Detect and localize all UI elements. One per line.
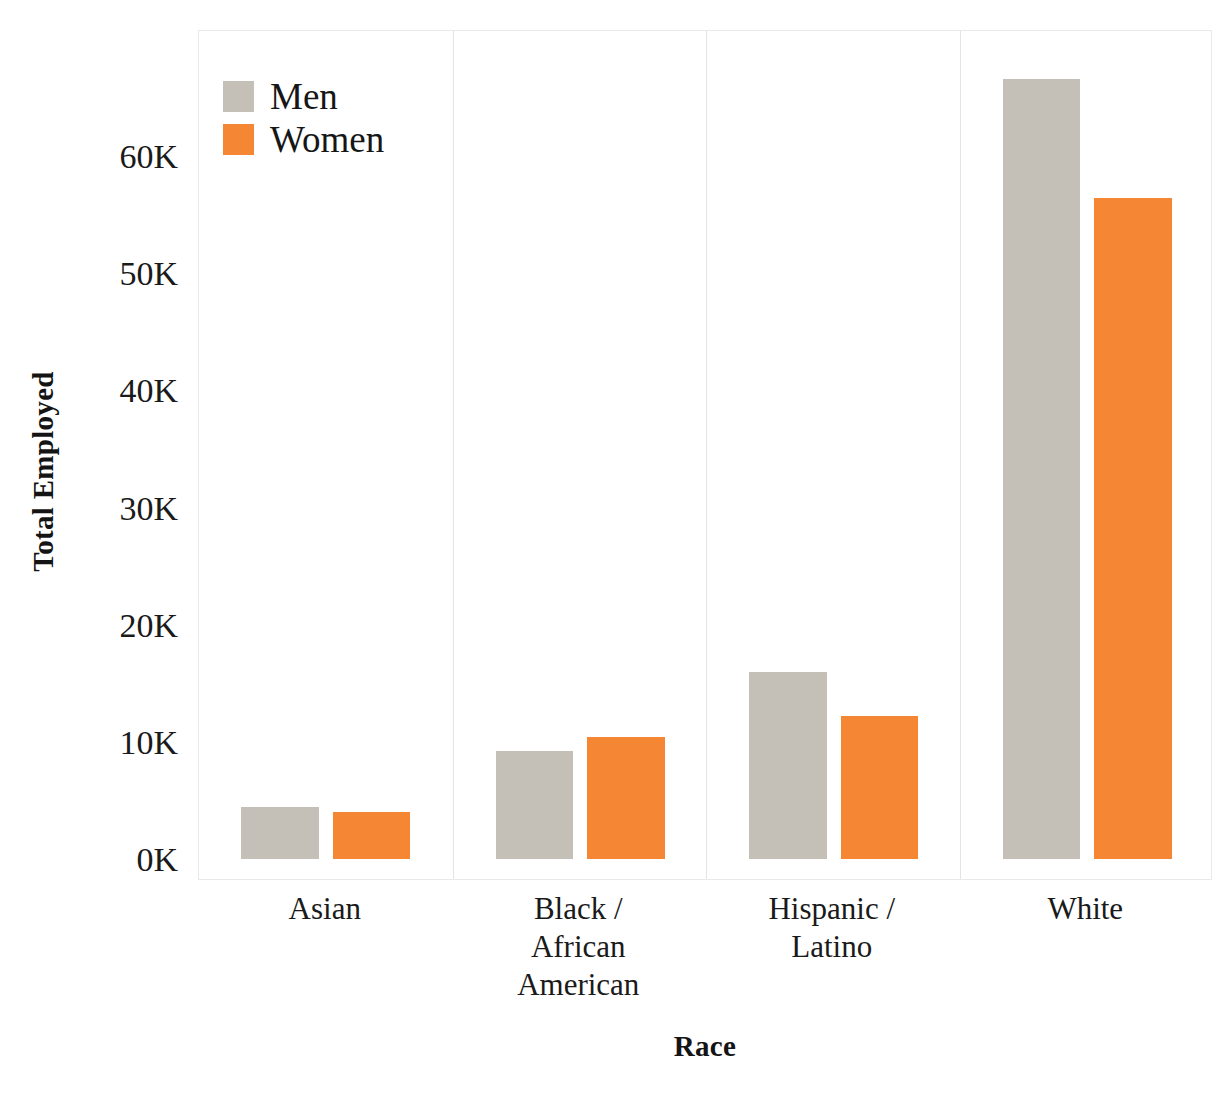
- x-category-label-line: American: [452, 966, 706, 1004]
- bar-women: [841, 716, 918, 859]
- bar-chart: Total Employed 0K10K20K30K40K50K60K Men …: [0, 0, 1221, 1098]
- bar-group: [961, 31, 1214, 879]
- bar-women: [333, 812, 410, 859]
- y-tick-label: 20K: [119, 609, 178, 643]
- x-category-label-line: Black /: [452, 890, 706, 928]
- chart-panel: [453, 31, 707, 879]
- x-category-label: Asian: [198, 890, 452, 928]
- bar-men: [241, 807, 318, 859]
- x-category-label: White: [959, 890, 1213, 928]
- x-category-label-line: African: [452, 928, 706, 966]
- x-axis-category-labels: AsianBlack /AfricanAmericanHispanic /Lat…: [198, 890, 1212, 1030]
- bar-men: [1003, 79, 1080, 859]
- y-tick-label: 0K: [136, 843, 178, 877]
- bar-women: [1094, 198, 1171, 859]
- x-category-label-line: Hispanic /: [705, 890, 959, 928]
- bar-group: [707, 31, 960, 879]
- bar-men: [496, 751, 573, 859]
- y-tick-label: 60K: [119, 140, 178, 174]
- x-category-label-line: White: [959, 890, 1213, 928]
- x-category-label-line: Latino: [705, 928, 959, 966]
- x-category-label: Black /AfricanAmerican: [452, 890, 706, 1004]
- y-tick-label: 10K: [119, 726, 178, 760]
- chart-panel: [960, 31, 1214, 879]
- y-tick-label: 50K: [119, 257, 178, 291]
- bar-men: [749, 672, 826, 859]
- x-category-label-line: Asian: [198, 890, 452, 928]
- bar-women: [587, 737, 664, 859]
- y-tick-label: 30K: [119, 492, 178, 526]
- y-axis-tick-labels: 0K10K20K30K40K50K60K: [0, 0, 190, 1098]
- plot-area: Men Women: [198, 30, 1212, 880]
- chart-panel: [706, 31, 960, 879]
- x-axis-title: Race: [198, 1030, 1212, 1063]
- bar-group: [199, 31, 453, 879]
- bar-group: [454, 31, 707, 879]
- x-category-label: Hispanic /Latino: [705, 890, 959, 966]
- y-tick-label: 40K: [119, 374, 178, 408]
- chart-panel: [199, 31, 453, 879]
